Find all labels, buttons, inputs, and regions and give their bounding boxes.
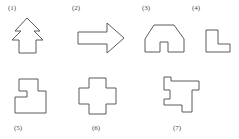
arch-gate-shape xyxy=(145,25,184,52)
plus-cross-shape xyxy=(79,78,116,114)
L-corner-shape xyxy=(206,30,230,52)
figure-label-7: (7) xyxy=(173,124,181,132)
figure-label-3: (3) xyxy=(142,4,150,12)
right-arrow-shape xyxy=(78,23,124,53)
figure-label-6: (6) xyxy=(92,124,100,132)
shapes-canvas xyxy=(0,0,239,139)
notched-square-shape xyxy=(164,77,199,112)
figure-label-1: (1) xyxy=(8,4,16,12)
figure-label-2: (2) xyxy=(72,4,80,12)
arrow-tree-shape xyxy=(12,18,43,53)
figure-sheet: (1) (2) (3) (4) (5) (6) (7) xyxy=(0,0,239,139)
z-step-shape xyxy=(15,79,46,113)
figure-label-4: (4) xyxy=(192,4,200,12)
figure-label-5: (5) xyxy=(14,124,22,132)
